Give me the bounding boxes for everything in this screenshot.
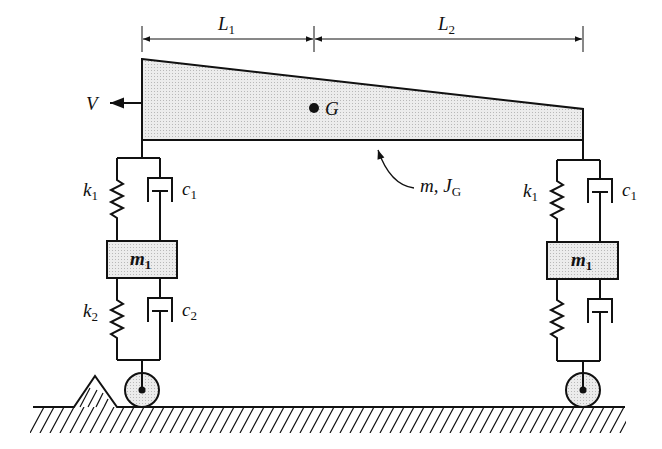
right-lower-damper (588, 279, 612, 361)
right-lower-spring (551, 279, 563, 361)
car-body (142, 59, 583, 140)
right-upper-spring (551, 160, 563, 242)
body-mass-label: m, JG (420, 175, 461, 199)
l2-label: L2 (437, 13, 455, 37)
right-upper-damper (588, 160, 612, 242)
road-bump (33, 376, 625, 407)
left-lower-damper (148, 278, 172, 360)
left-lower-spring (111, 278, 123, 360)
ground (30, 376, 634, 433)
left-upper-damper (148, 158, 172, 241)
left-wheel-hub (139, 387, 146, 394)
cg-label: G (325, 98, 339, 119)
left-c2-label: c2 (182, 299, 197, 323)
velocity-label: V (86, 93, 100, 114)
left-c1-label: c1 (182, 178, 197, 202)
mass-pointer-arrow (378, 150, 414, 188)
cg-dot (309, 103, 319, 113)
dimension-lines (142, 26, 583, 52)
right-c1-label: c1 (622, 179, 637, 203)
l1-label: L1 (217, 13, 235, 37)
right-wheel-hub (580, 387, 587, 394)
left-upper-spring (111, 158, 123, 241)
left-k1-label: k1 (83, 179, 98, 203)
half-car-diagram: L1 L2 G V m, JG k (0, 0, 662, 449)
right-k1-label: k1 (523, 180, 538, 204)
left-k2-label: k2 (83, 300, 98, 324)
